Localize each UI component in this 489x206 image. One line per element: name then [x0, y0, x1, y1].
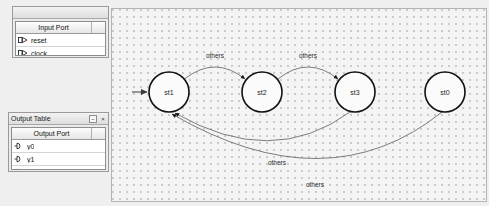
transition-st2-st3[interactable]	[278, 67, 338, 79]
output-panel-titlebar[interactable]: Output Table − ×	[9, 113, 108, 125]
transition-st1-st2[interactable]	[185, 67, 246, 79]
input-port-header-label: Input Port	[16, 22, 92, 33]
output-port-header-spacer	[92, 128, 105, 139]
output-port-table[interactable]: Output Port y0 y1	[11, 127, 106, 170]
transition-label-st0-st1: others	[306, 181, 325, 188]
output-port-icon	[14, 142, 24, 150]
table-row[interactable]: y1	[12, 153, 105, 166]
input-port-column-header: Input Port	[16, 22, 105, 34]
transition-label-st1-st2: others	[206, 52, 225, 59]
transition-st0-st1[interactable]	[172, 112, 442, 159]
output-port-column-header: Output Port	[12, 128, 105, 140]
input-port-name: clock	[31, 50, 47, 57]
state-label-st0: st0	[440, 89, 449, 96]
table-row[interactable]: y0	[12, 140, 105, 153]
output-table-panel[interactable]: Output Table − × Output Port y0	[8, 112, 109, 172]
input-port-icon	[18, 36, 28, 44]
table-row[interactable]: clock	[16, 47, 105, 56]
output-port-icon	[14, 168, 24, 170]
transition-st3-st1[interactable]	[175, 112, 350, 141]
input-port-icon	[18, 49, 28, 56]
input-port-panel[interactable]: Input Port reset clock	[12, 6, 109, 58]
input-port-table[interactable]: Input Port reset clock	[15, 21, 106, 56]
state-label-st2: st2	[257, 89, 266, 96]
state-label-st3: st3	[350, 89, 359, 96]
transition-label-st3-st1: others	[268, 159, 287, 166]
output-port-name: y1	[27, 156, 34, 163]
transition-label-st2-st3: others	[299, 52, 318, 59]
state-diagram-canvas[interactable]: others others others others st1 st2 st3 …	[111, 8, 487, 202]
minimize-button[interactable]: −	[89, 115, 97, 123]
fsm-editor-window: others others others others st1 st2 st3 …	[0, 0, 489, 206]
output-port-icon	[14, 155, 24, 163]
input-port-name: reset	[31, 37, 47, 44]
output-port-header-label: Output Port	[12, 128, 92, 139]
close-button[interactable]: ×	[100, 116, 106, 122]
output-panel-title: Output Table	[11, 115, 51, 122]
table-row[interactable]: y2	[12, 166, 105, 170]
output-port-name: y2	[27, 169, 34, 171]
state-diagram-svg: others others others others st1 st2 st3 …	[112, 9, 486, 201]
state-label-st1: st1	[164, 89, 173, 96]
output-port-name: y0	[27, 143, 34, 150]
input-panel-titlebar[interactable]	[13, 7, 108, 19]
table-row[interactable]: reset	[16, 34, 105, 47]
input-port-header-spacer	[92, 22, 105, 33]
output-panel-window-controls: − ×	[89, 113, 106, 124]
